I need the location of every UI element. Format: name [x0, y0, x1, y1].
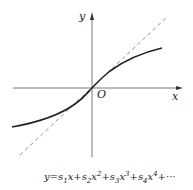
- x-axis-label: x: [172, 90, 178, 103]
- series-formula: y=s1x+s2x2+s3x3+s4x4+···: [44, 170, 176, 185]
- term-4: s4x4: [138, 171, 158, 182]
- origin-label: O: [97, 88, 106, 101]
- term-3: s3x3: [110, 171, 130, 182]
- formula-tail: +···: [158, 171, 176, 182]
- term-1: s1x: [58, 171, 73, 182]
- term-2: s2x2: [82, 171, 102, 182]
- y-axis-label: y: [79, 10, 85, 23]
- y-axis-arrow-icon: [90, 12, 94, 20]
- formula-lhs: y=: [44, 171, 58, 182]
- curve: [12, 48, 162, 127]
